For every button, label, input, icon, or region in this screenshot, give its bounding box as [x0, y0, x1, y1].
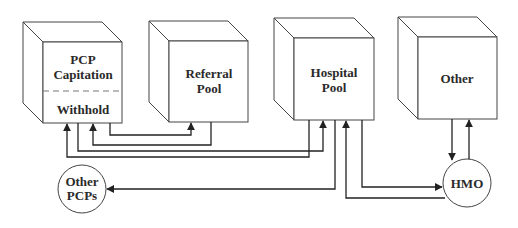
other-pcps-node: Other PCPs	[58, 165, 106, 213]
other-box: Other	[398, 17, 497, 119]
hospital-pool-label: Pool	[322, 80, 347, 95]
flow-diagram: PCP Capitation Withhold Referral Pool Ho…	[0, 0, 518, 228]
capitation-label: Capitation	[53, 67, 113, 82]
hmo-label: HMO	[451, 176, 484, 191]
pcp-label: PCP	[70, 52, 95, 67]
other-label: Other	[440, 71, 473, 86]
edge-hospital-to-hmo	[362, 120, 442, 187]
edge-withhold-to-referral	[110, 123, 191, 135]
hospital-pool-box: Hospital Pool	[274, 18, 374, 120]
other-pcps-label-1: Other	[65, 174, 98, 189]
edge-referral-to-withhold	[93, 122, 211, 145]
hmo-node: HMO	[443, 159, 491, 207]
withhold-label: Withhold	[57, 102, 110, 117]
hospital-label: Hospital	[311, 65, 358, 80]
edge-withhold-to-hospital	[78, 121, 323, 151]
referral-label: Referral	[186, 66, 233, 81]
other-pcps-label-2: PCPs	[67, 188, 97, 203]
pcp-capitation-box: PCP Capitation Withhold	[23, 22, 122, 123]
referral-pool-box: Referral Pool	[149, 21, 248, 122]
edge-hospital-to-other-pcps	[107, 120, 335, 189]
referral-pool-label: Pool	[197, 81, 222, 96]
